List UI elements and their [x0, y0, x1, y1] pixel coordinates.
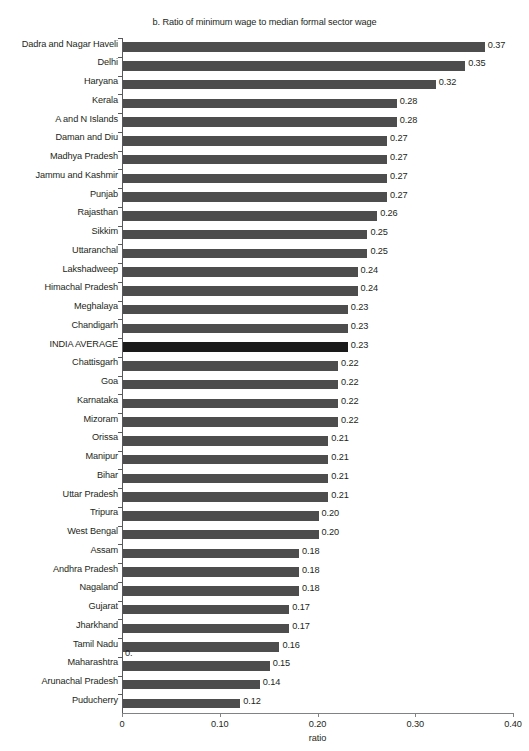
- bar-row: Gujarat0.17: [122, 601, 513, 620]
- category-label: Kerala: [6, 95, 118, 105]
- bar: [123, 661, 270, 671]
- y-axis-tick: [118, 169, 122, 170]
- bar: [123, 511, 319, 521]
- y-axis-tick: [118, 394, 122, 395]
- bar: [123, 249, 367, 259]
- bar: [123, 530, 319, 540]
- category-label: Lakshadweep: [6, 264, 118, 274]
- bar-value-label: 0.21: [331, 452, 348, 462]
- bar-row: Tamil Nadu0.16: [122, 638, 513, 657]
- category-label: Daman and Diu: [6, 132, 118, 142]
- bar-row: Jammu and Kashmir0.27: [122, 169, 513, 188]
- bar: [123, 642, 279, 652]
- y-axis-tick: [118, 244, 122, 245]
- bar-row: Bihar0.21: [122, 469, 513, 488]
- bar-row: Lakshadweep0.24: [122, 263, 513, 282]
- bar: [123, 605, 289, 615]
- bar: [123, 61, 465, 71]
- y-axis-tick: [118, 263, 122, 264]
- y-axis-tick: [118, 413, 122, 414]
- category-label: Uttar Pradesh: [6, 489, 118, 499]
- bar-value-label: 0.27: [390, 171, 407, 181]
- bar-row: Goa0.22: [122, 376, 513, 395]
- bar-value-label: 0.21: [331, 471, 348, 481]
- x-axis-tick: [318, 713, 319, 717]
- category-label: Mizoram: [6, 414, 118, 424]
- bar-row: Dadra and Nagar Haveli0.37: [122, 38, 513, 57]
- bar: [123, 267, 358, 277]
- bar-value-label: 0.22: [341, 415, 358, 425]
- y-axis-tick: [118, 338, 122, 339]
- bar: [123, 436, 328, 446]
- bar-row: Punjab0.27: [122, 188, 513, 207]
- bar: [123, 192, 387, 202]
- y-axis-tick: [118, 301, 122, 302]
- category-label: Sikkim: [6, 226, 118, 236]
- category-label: Uttaranchal: [6, 245, 118, 255]
- bar-row: Uttar Pradesh0.21: [122, 488, 513, 507]
- y-axis-tick: [118, 282, 122, 283]
- category-label: West Bengal: [6, 526, 118, 536]
- y-axis-tick: [118, 526, 122, 527]
- category-label: Delhi: [6, 57, 118, 67]
- bar: [123, 211, 377, 221]
- bar: [123, 455, 328, 465]
- plot-area: Dadra and Nagar Haveli0.37Delhi0.35Harya…: [122, 38, 513, 713]
- chart-title: b. Ratio of minimum wage to median forma…: [0, 17, 529, 27]
- bar-row: Assam0.18: [122, 544, 513, 563]
- bar-row: Manipur0.21: [122, 451, 513, 470]
- category-label: Karnataka: [6, 395, 118, 405]
- bar-value-label: 0.27: [390, 190, 407, 200]
- bar-value-label: 0.28: [400, 96, 417, 106]
- category-label: Rajasthan: [6, 207, 118, 217]
- bar-value-label: 0.20: [322, 527, 339, 537]
- bar-value-label: 0.18: [302, 565, 319, 575]
- bar-value-label: 0.14: [263, 677, 280, 687]
- x-axis-tick-label: 0.40: [493, 719, 529, 729]
- stray-annotation: 0.: [125, 648, 133, 658]
- y-axis-tick: [118, 357, 122, 358]
- bar-value-label: 0.18: [302, 583, 319, 593]
- bar-value-label: 0.21: [331, 433, 348, 443]
- bar: [123, 99, 397, 109]
- bar-row: Sikkim0.25: [122, 226, 513, 245]
- y-axis-tick: [118, 582, 122, 583]
- category-label: INDIA AVERAGE: [6, 339, 118, 349]
- bar: [123, 230, 367, 240]
- bar-row: Kerala0.28: [122, 94, 513, 113]
- y-axis-tick: [118, 57, 122, 58]
- bar: [123, 474, 328, 484]
- category-label: Orissa: [6, 432, 118, 442]
- bar-value-label: 0.24: [361, 265, 378, 275]
- y-axis-tick: [118, 694, 122, 695]
- bar-value-label: 0.20: [322, 508, 339, 518]
- bar: [123, 174, 387, 184]
- bar-row: Karnataka0.22: [122, 394, 513, 413]
- y-axis-tick: [118, 507, 122, 508]
- y-axis-tick: [118, 76, 122, 77]
- category-label: Meghalaya: [6, 301, 118, 311]
- bar-row: Haryana0.32: [122, 76, 513, 95]
- bar-row: Maharashtra0.15: [122, 657, 513, 676]
- y-axis-tick: [118, 544, 122, 545]
- bar: [123, 342, 348, 352]
- y-axis-tick: [118, 638, 122, 639]
- x-axis-tick-label: 0: [102, 719, 142, 729]
- bar-value-label: 0.26: [380, 208, 397, 218]
- bar-value-label: 0.27: [390, 152, 407, 162]
- bar-row: Puducherry0.12: [122, 694, 513, 713]
- x-axis-tick-label: 0.30: [395, 719, 435, 729]
- y-axis-tick: [118, 657, 122, 658]
- bar-value-label: 0.23: [351, 340, 368, 350]
- category-label: Gujarat: [6, 601, 118, 611]
- bar: [123, 361, 338, 371]
- category-label: Chandigarh: [6, 320, 118, 330]
- y-axis-tick: [118, 151, 122, 152]
- bar-row: A and N Islands0.28: [122, 113, 513, 132]
- x-axis-tick-label: 0.10: [200, 719, 240, 729]
- y-axis-tick: [118, 113, 122, 114]
- bar-value-label: 0.12: [243, 696, 260, 706]
- category-label: Dadra and Nagar Haveli: [6, 39, 118, 49]
- y-axis-tick: [118, 207, 122, 208]
- bar-value-label: 0.17: [292, 602, 309, 612]
